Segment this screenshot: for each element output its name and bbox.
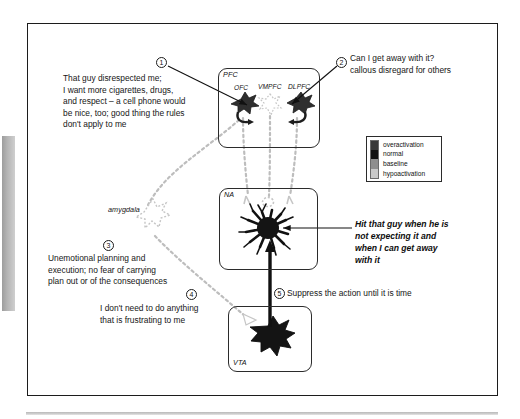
legend-label-overactivation: overactivation (383, 140, 438, 149)
step-marker-3: 3 (103, 240, 114, 251)
callout-text-1: That guy disrespected me; I want more ci… (63, 73, 213, 131)
amygdala-neuron (136, 199, 170, 228)
activation-legend: overactivation normal baseline hypoactiv… (366, 136, 442, 182)
legend-label-normal: normal (383, 149, 438, 158)
region-label-vta: VTA (233, 358, 247, 367)
region-label-na: NA (224, 190, 234, 199)
callout-text-4: I don't need to do anything that is frus… (100, 303, 230, 326)
step-marker-4: 4 (186, 289, 197, 300)
subregion-label-ofc: OFC (234, 84, 248, 91)
callout-text-action: Hit that guy when he is not expecting it… (355, 218, 475, 266)
callout-text-3: Unemotional planning and execution; no f… (48, 253, 208, 288)
legend-label-list: overactivation normal baseline hypoactiv… (379, 140, 438, 179)
callout-text-5: Suppress the action until it is time (287, 288, 467, 300)
subregion-label-vmpfc: VMPFC (258, 83, 282, 90)
callout-text-2: Can I get away with it? callous disregar… (350, 53, 495, 76)
step-marker-2: 2 (336, 57, 347, 68)
step-marker-1: 1 (156, 57, 167, 68)
step-marker-5: 5 (274, 288, 285, 299)
legend-label-hypoactivation: hypoactivation (383, 169, 438, 178)
subregion-label-dlpfc: DLPFC (288, 83, 310, 90)
region-box-pfc (218, 68, 320, 148)
legend-label-baseline: baseline (383, 159, 438, 168)
legend-gradient-swatch (370, 140, 379, 179)
region-box-na (219, 188, 318, 270)
region-label-amygdala: amygdala (108, 205, 140, 214)
region-label-pfc: PFC (223, 70, 238, 79)
